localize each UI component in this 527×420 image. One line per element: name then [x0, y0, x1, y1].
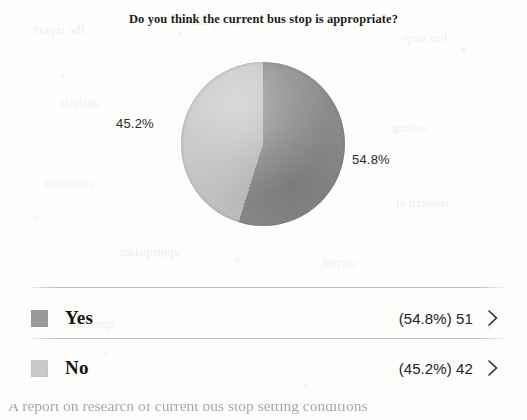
legend-value-yes: (54.8%) 51 [399, 310, 473, 327]
legend-label-yes: Yes [65, 307, 93, 329]
pie-slices [181, 62, 345, 226]
legend-swatch-yes [31, 310, 48, 327]
chevron-right-icon[interactable] [486, 309, 499, 327]
pie-graphic [181, 62, 345, 226]
pie-label-no-percent: 45.2% [116, 116, 154, 131]
legend-value-no: (45.2%) 42 [399, 360, 473, 377]
ghost-text: bus stop [404, 30, 447, 46]
legend-label-no: No [65, 357, 89, 379]
ghost-text: current [322, 256, 356, 271]
chevron-right-icon[interactable] [486, 359, 499, 377]
pie-chart: 45.2% 54.8% [0, 52, 527, 252]
pie-label-yes-percent: 54.8% [352, 152, 390, 167]
cutoff-text-region: A report on research of current bus stop… [0, 404, 527, 420]
cutoff-text: A report on research of current bus stop… [8, 404, 367, 415]
legend-right-yes: (54.8%) 51 [399, 309, 499, 327]
page-title: Do you think the current bus stop is app… [0, 12, 527, 27]
legend-row-yes[interactable]: Yes (54.8%) 51 [0, 296, 527, 340]
legend-row-no[interactable]: No (45.2%) 42 [0, 346, 527, 390]
divider-above-legend [26, 287, 508, 288]
legend-swatch-no [31, 360, 48, 377]
legend-right-no: (45.2%) 42 [399, 359, 499, 377]
